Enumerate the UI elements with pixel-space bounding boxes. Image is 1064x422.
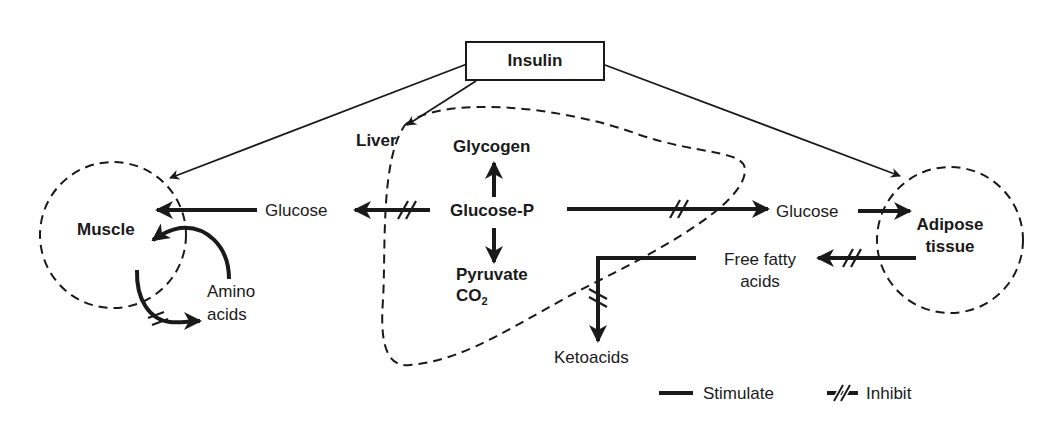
glucose-right-label: Glucose [776,202,838,222]
insulin-label: Insulin [508,51,563,71]
insulin-to-muscle-arrow [170,64,467,178]
ffa-label-line2: acids [710,272,810,292]
co2-label: CO2 [456,286,488,308]
ffa-to-ketoacids-arrow [598,258,696,341]
liver-compartment [382,107,745,365]
glycogen-label: Glycogen [453,137,530,157]
liver-label: Liver [356,131,397,151]
co2-subscript: 2 [482,295,488,307]
glucose-left-label: Glucose [265,201,327,221]
muscle-label: Muscle [77,220,135,240]
insulin-node: Insulin [465,41,605,81]
legend-inhibit-swatch [827,385,858,401]
insulin-to-liver-arrow [407,81,476,125]
amino-to-muscle-arrow [153,228,229,279]
ffa-label-line1: Free fatty [710,250,810,270]
ketoacids-label: Ketoacids [554,348,629,368]
co2-text: CO [456,286,482,305]
insulin-to-adipose-arrow [605,65,900,176]
legend-stimulate-label: Stimulate [703,384,774,404]
glucose-p-label: Glucose-P [450,201,534,221]
legend-inhibit-label: Inhibit [866,384,911,404]
tissue-label: tissue [905,237,995,257]
pyruvate-label: Pyruvate [456,265,528,285]
muscle-to-amino-arrow [137,270,200,322]
adipose-label: Adipose [905,215,995,235]
amino-label: Amino [207,282,255,302]
acids-label: acids [207,305,247,325]
